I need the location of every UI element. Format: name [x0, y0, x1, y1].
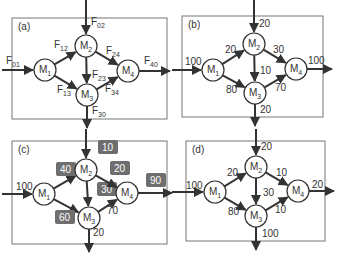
flow-value: 60 [59, 212, 71, 223]
flow-label: 100 [262, 228, 279, 239]
flow-label: 10 [276, 167, 288, 178]
flow-label: F24 [106, 45, 120, 58]
flow-label: F23 [92, 69, 106, 82]
flow-value: 10 [102, 142, 114, 153]
flow-label: F34 [105, 83, 119, 96]
flow-label: 30 [263, 187, 275, 198]
flow-label: 20 [260, 104, 272, 115]
flow-label: F13 [57, 84, 71, 97]
diagram-canvas: (a)F01F02F12F13F23F24F34F40F30M1M2M3M4 (… [0, 0, 344, 258]
flow-label: 20 [227, 167, 239, 178]
flow-network-diagram: (a)F01F02F12F13F23F24F34F40F30M1M2M3M4 (… [0, 0, 344, 258]
panel-d: (d)10020208030101020100M1M2M3M4 [172, 129, 334, 250]
flow-label: 20 [312, 179, 324, 190]
panel-label: (c) [18, 144, 30, 155]
flow-label: F40 [144, 55, 158, 68]
flow-label: 100 [185, 56, 202, 67]
flow-label: 100 [186, 180, 203, 191]
flow-label: 20 [261, 141, 273, 152]
panel-label: (d) [192, 144, 204, 155]
flow-value: 30 [101, 184, 113, 195]
flow-value: 40 [60, 164, 72, 175]
flow-label: 10 [275, 204, 287, 215]
flow-arrow-m1-m2 [54, 176, 76, 189]
panel-c: (c)1001040603020709020M1M2M3M4 [2, 129, 172, 252]
flow-arrow-m2-m3 [87, 181, 89, 206]
flow-label: 20 [93, 227, 105, 238]
flow-label: 70 [275, 82, 287, 93]
flow-label: 70 [107, 205, 119, 216]
flow-label: 30 [273, 44, 285, 55]
panel-a: (a)F01F02F12F13F23F24F34F40F30M1M2M3M4 [2, 0, 170, 128]
flow-label: 10 [260, 65, 272, 76]
panel-b: (b)10020208010307010020M1M2M3M4 [172, 0, 332, 126]
flow-label: 20 [259, 18, 271, 29]
flow-label: F30 [92, 105, 106, 118]
flow-label: 100 [16, 181, 33, 192]
flow-arrow-m1-m2 [54, 52, 75, 64]
flow-value: 90 [150, 175, 162, 186]
flow-value: 20 [114, 163, 126, 174]
flow-label: F12 [54, 39, 68, 52]
flow-label: 80 [226, 84, 238, 95]
flow-label: F01 [6, 55, 20, 68]
flow-label: 80 [228, 206, 240, 217]
flow-label: 100 [308, 55, 325, 66]
flow-arrow-m2-m3 [254, 55, 255, 81]
flow-arrow-m2-m3 [86, 57, 87, 83]
panel-label: (b) [188, 19, 200, 30]
panel-label: (a) [18, 21, 30, 32]
flow-label: 20 [225, 44, 237, 55]
